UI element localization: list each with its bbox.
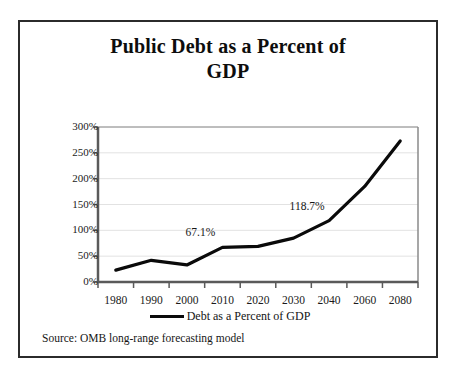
chart-legend: Debt as a Percent of GDP — [20, 310, 440, 323]
legend-entry-label: Debt as a Percent of GDP — [187, 310, 311, 323]
source-note: Source: OMB long-range forecasting model — [42, 332, 244, 345]
data-point-label: 118.7% — [290, 200, 325, 212]
figure-frame: Public Debt as a Percent of GDP 0%50%100… — [18, 20, 438, 358]
data-point-label: 67.1% — [186, 226, 216, 238]
legend-line-swatch — [150, 315, 184, 318]
